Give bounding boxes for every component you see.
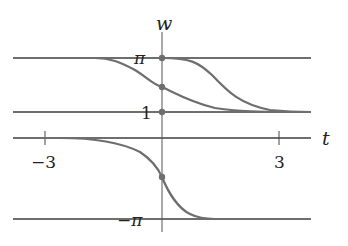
x-axis-label: t — [322, 127, 330, 149]
y-axis-label: w — [156, 12, 172, 34]
y-tick-label-neg-pi: −π — [117, 210, 143, 230]
x-tick-label-3: 3 — [274, 152, 285, 172]
y-tick-label-one: 1 — [141, 103, 152, 123]
initial-point-neg-half-pi — [159, 174, 165, 180]
x-tick-label-neg3: −3 — [31, 152, 56, 172]
initial-point-one — [159, 109, 165, 115]
initial-point-pi — [159, 55, 165, 61]
y-tick-label-pi: π — [133, 48, 146, 68]
initial-point-two — [159, 84, 165, 90]
phase-line-chart: w t π 1 −π −3 3 — [0, 0, 348, 246]
